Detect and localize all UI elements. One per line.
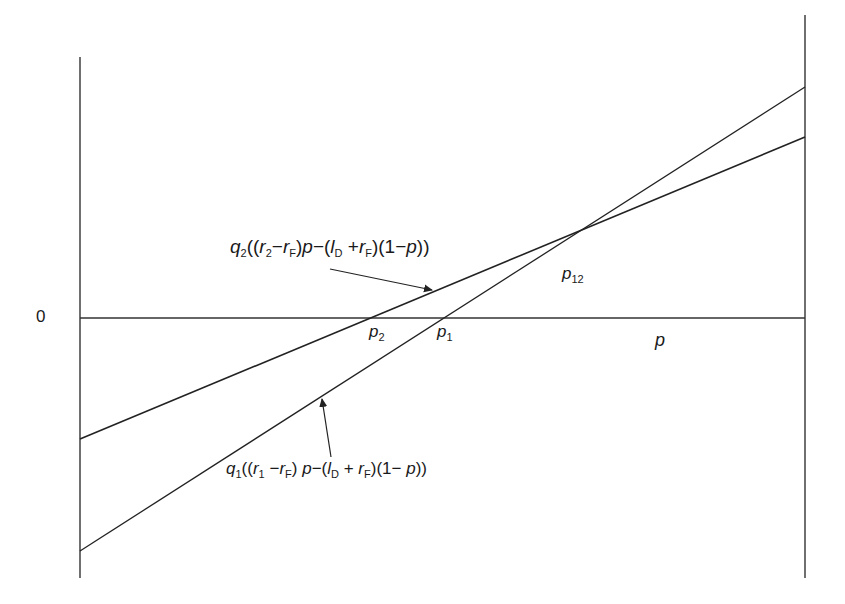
q1-arrow [322,399,331,457]
p12-sub: 12 [571,273,583,285]
q2-line [80,137,805,439]
q1-line [80,87,805,551]
q2-r-sub: 2 [266,247,272,259]
p1-label: p1 [437,322,453,343]
q1-ld-sub: D [331,468,339,480]
p2-sub: 2 [378,331,384,343]
q2-formula-label: q2((r2−rF)p−(lD +rF)(1−p)) [230,236,430,259]
p12-label: p12 [562,264,584,285]
zero-label: 0 [36,307,45,327]
q2-q-sub: 2 [241,247,247,259]
q1-rf-sub-2: F [364,468,371,480]
x-axis-label: p [655,330,665,351]
q1-q-sub: 1 [235,468,241,480]
q1-r-sub: 1 [259,468,265,480]
q2-q: q [230,236,241,257]
q2-rf-sub: F [289,247,296,259]
p2-label: p2 [369,322,385,343]
q1-formula-label: q1((r1 −rF) p−(lD + rF)(1− p)) [226,459,427,480]
diagram-canvas [0,0,845,604]
p1-sub: 1 [446,331,452,343]
q1-rf-sub: F [285,468,292,480]
q2-ld-sub: D [335,247,343,259]
q2-rf-sub-2: F [365,247,372,259]
q2-arrow [330,269,432,290]
